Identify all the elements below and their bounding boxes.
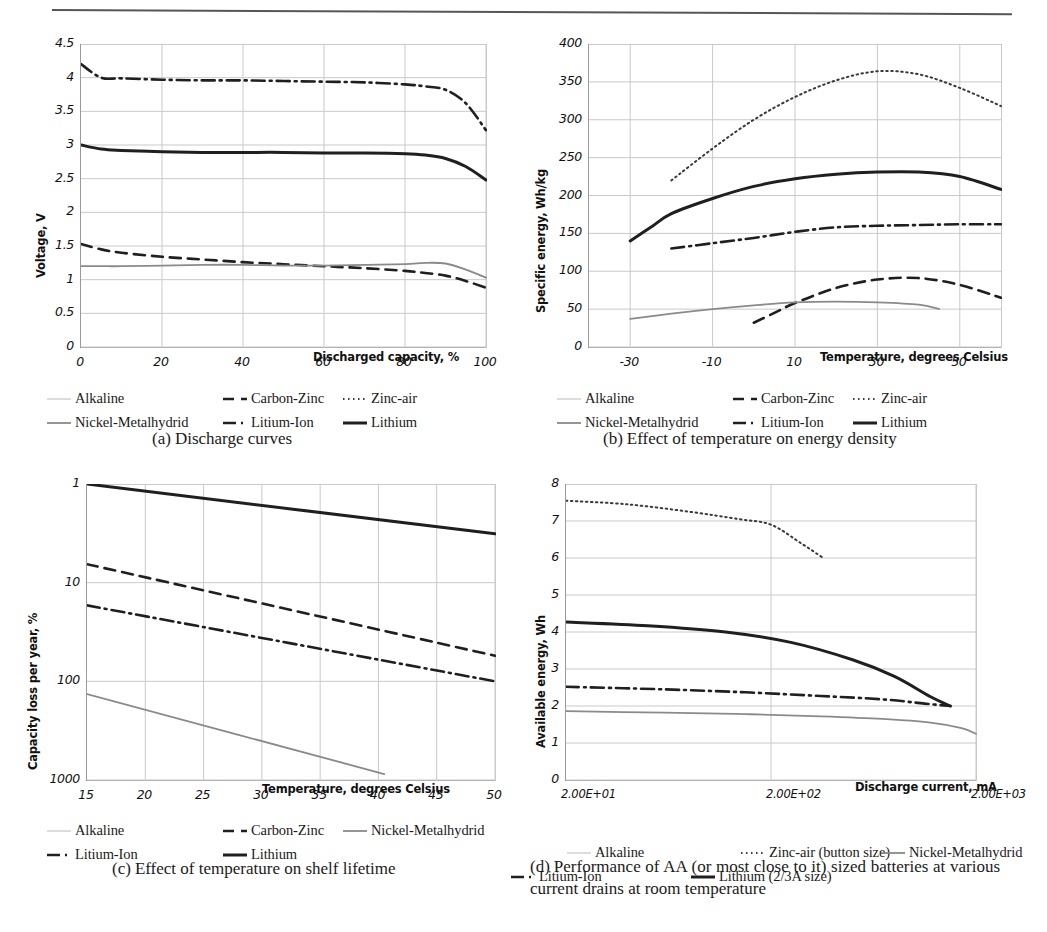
caption-d-index: (d): [530, 857, 550, 876]
chart-a-ytick: 2: [30, 203, 74, 218]
chart-a-ytick: 1.5: [30, 237, 74, 252]
chart-c-xtick: 20: [126, 787, 162, 802]
legend-label: Alkaline: [585, 390, 634, 407]
chart-b-ytick: 100: [538, 262, 582, 277]
chart-c-xtick: 30: [243, 787, 279, 802]
legend-swatch-icon: [556, 393, 582, 405]
chart-c-xtick: 40: [359, 787, 395, 802]
legend-swatch-icon: [46, 417, 72, 429]
chart-c-ytick: 100: [36, 672, 80, 687]
chart-d-series-litium-ion: [566, 687, 950, 706]
chart-a-ytick: 3: [30, 136, 74, 151]
chart-c-series-nickel-metalhydrid: [87, 694, 384, 774]
legend-swatch-icon: [342, 825, 368, 837]
legend-swatch-icon: [732, 417, 758, 429]
caption-d: (d)Performance of AA (or most close to i…: [530, 856, 1000, 901]
legend-label: Carbon-Zinc: [251, 390, 324, 407]
legend-label: Alkaline: [75, 390, 124, 407]
chart-d-series-zinc-air-button-size: [566, 501, 823, 558]
chart-d-ytick: 6: [515, 549, 559, 564]
chart-a-ytick: 2.5: [30, 170, 74, 185]
chart-c-xtick: 25: [185, 787, 221, 802]
chart-d-ytick: 3: [515, 660, 559, 675]
panel-c: Capacity loss per year, % Temperature, d…: [0, 470, 520, 870]
legend-item-zinc-air[interactable]: Zinc-air: [852, 390, 927, 407]
chart-b-series-nickel-metalhydrid: [630, 302, 939, 319]
chart-c-xtick: 50: [476, 787, 512, 802]
panel-d: Available energy, Wh Discharge current, …: [510, 470, 1047, 870]
chart-a-xtick: 100: [467, 354, 503, 369]
caption-b-index: (b): [603, 429, 623, 448]
legend-label: Zinc-air: [881, 390, 927, 407]
chart-b-ytick: 300: [538, 111, 582, 126]
chart-a-xtick: 40: [224, 354, 260, 369]
chart-d-ytick: 5: [515, 586, 559, 601]
chart-b-ytick: 50: [538, 300, 582, 315]
legend-item-carbon-zinc[interactable]: Carbon-Zinc: [222, 390, 324, 407]
chart-b-ytick: 150: [538, 224, 582, 239]
caption-c: (c)Effect of temperature on shelf lifeti…: [112, 858, 532, 880]
chart-b-ytick: 350: [538, 73, 582, 88]
chart-c-ylabel: Capacity loss per year, %: [26, 613, 40, 770]
chart-d-ytick: 4: [515, 623, 559, 638]
chart-d-xtick: 2.00E+01: [561, 787, 616, 801]
legend-swatch-icon: [852, 417, 878, 429]
legend-item-alkaline[interactable]: Alkaline: [46, 390, 124, 407]
caption-a-index: (a): [152, 429, 171, 448]
chart-a-ytick: 1: [30, 271, 74, 286]
chart-c-series-lithium: [87, 484, 495, 534]
chart-c-ytick: 1: [36, 475, 80, 490]
chart-a-ytick: 4.5: [30, 35, 74, 50]
legend-item-alkaline[interactable]: Alkaline: [46, 822, 124, 839]
legend-swatch-icon: [732, 393, 758, 405]
panel-a: Voltage, V Discharged capacity, % 00.511…: [0, 28, 520, 438]
chart-d-ytick: 8: [515, 475, 559, 490]
chart-c-ytick: 1000: [36, 771, 80, 786]
chart-b-xtick: 50: [941, 354, 977, 369]
chart-b-ytick: 0: [538, 338, 582, 353]
legend-item-nickel-metalhydrid[interactable]: Nickel-Metalhydrid: [342, 822, 484, 839]
caption-d-text: Performance of AA (or most close to it) …: [530, 857, 1000, 898]
legend-label: Alkaline: [75, 822, 124, 839]
caption-a: (a)Discharge curves: [152, 428, 512, 450]
legend-item-carbon-zinc[interactable]: Carbon-Zinc: [222, 822, 324, 839]
legend-swatch-icon: [46, 393, 72, 405]
chart-c-xtick: 45: [418, 787, 454, 802]
caption-a-text: Discharge curves: [175, 429, 292, 448]
chart-a-series-nickel-metalhydrid: [81, 263, 486, 278]
chart-a-xtick: 60: [305, 354, 341, 369]
chart-b-ytick: 250: [538, 149, 582, 164]
chart-a-series-lithium: [81, 145, 486, 180]
chart-a-ytick: 4: [30, 69, 74, 84]
legend-item-zinc-air[interactable]: Zinc-air: [342, 390, 417, 407]
chart-d-ytick: 7: [515, 512, 559, 527]
chart-c-series-litium-ion: [87, 605, 495, 681]
legend-swatch-icon: [852, 393, 878, 405]
legend-swatch-icon: [222, 825, 248, 837]
chart-b-xtick: 30: [858, 354, 894, 369]
chart-d-xtick: 2.00E+02: [766, 787, 821, 801]
legend-label: Zinc-air: [371, 390, 417, 407]
chart-b-xtick: -10: [694, 354, 730, 369]
chart-b-plot-area: [588, 44, 1001, 348]
chart-b-xtick: 10: [776, 354, 812, 369]
legend-label: Carbon-Zinc: [251, 822, 324, 839]
legend-swatch-icon: [342, 393, 368, 405]
chart-b-ytick: 200: [538, 187, 582, 202]
chart-b-series-litium-ion: [671, 224, 1001, 248]
legend-swatch-icon: [46, 849, 72, 861]
chart-a-xtick: 80: [386, 354, 422, 369]
legend-item-alkaline[interactable]: Alkaline: [556, 390, 634, 407]
legend-swatch-icon: [46, 825, 72, 837]
chart-c-series-carbon-zinc: [87, 564, 495, 656]
caption-b: (b)Effect of temperature on energy densi…: [603, 428, 1023, 450]
legend-label: Carbon-Zinc: [761, 390, 834, 407]
figure-page: Voltage, V Discharged capacity, % 00.511…: [0, 0, 1047, 932]
chart-d-ytick: 2: [515, 697, 559, 712]
chart-d-ytick: 0: [515, 771, 559, 786]
legend-item-carbon-zinc[interactable]: Carbon-Zinc: [732, 390, 834, 407]
chart-a-ytick: 3.5: [30, 102, 74, 117]
legend-swatch-icon: [222, 417, 248, 429]
chart-b-series-zinc-air: [671, 71, 1001, 180]
legend-swatch-icon: [342, 417, 368, 429]
